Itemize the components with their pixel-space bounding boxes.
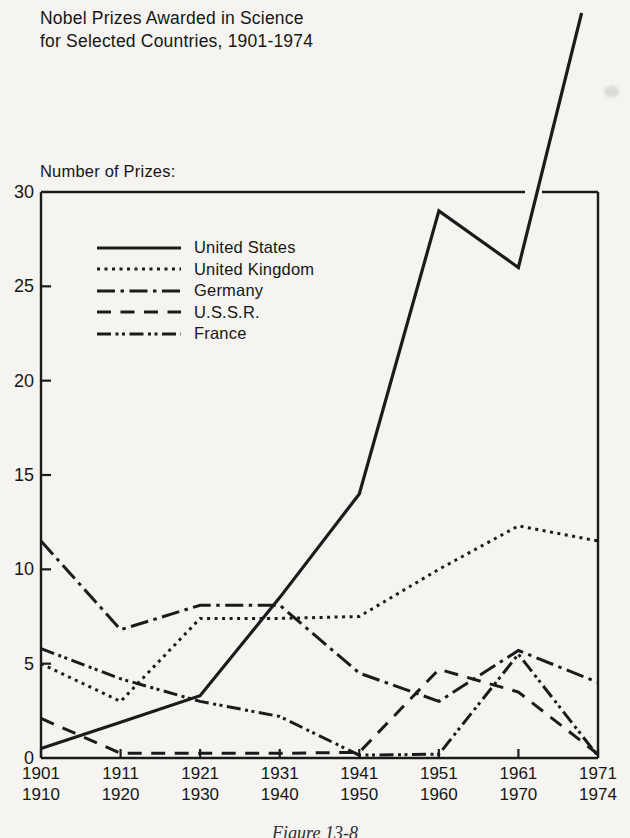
x-axis-label: 1921 (181, 764, 219, 783)
legend-swatch-solid-line (97, 245, 181, 251)
y-axis-label: 20 (14, 371, 34, 391)
legend-label: United Kingdom (194, 260, 314, 279)
x-axis-label: 1941 (340, 764, 378, 783)
legend-item-united-states: United States (97, 237, 314, 259)
series-line-u-s-s-r (41, 669, 598, 754)
y-axis-label: 5 (24, 654, 34, 674)
x-axis-label: 1951 (420, 764, 458, 783)
y-axis-label: 10 (14, 559, 34, 579)
y-axis-label: 30 (14, 182, 34, 202)
series-line-germany (41, 541, 598, 701)
legend-item-germany: Germany (97, 280, 314, 302)
legend-label: France (194, 324, 247, 343)
x-axis-label: 1940 (261, 785, 299, 804)
legend-swatch-dash-dot-dot-line (97, 331, 181, 337)
legend-label: U.S.S.R. (194, 303, 260, 322)
x-axis-label: 1931 (261, 764, 299, 783)
x-axis-label: 1970 (500, 785, 538, 804)
legend-item-france: France (97, 323, 314, 345)
series-line-united-states (41, 13, 582, 749)
x-axis-label: 1960 (420, 785, 458, 804)
legend-label: Germany (194, 281, 263, 300)
x-axis-label: 1974 (579, 785, 617, 804)
legend-label: United States (194, 238, 296, 257)
x-axis-label: 1910 (22, 785, 60, 804)
legend-swatch-long-dash-line (97, 309, 181, 315)
x-axis-label: 1911 (102, 764, 139, 783)
x-axis-label: 1950 (340, 785, 378, 804)
x-axis-label: 1930 (181, 785, 219, 804)
y-axis: 051015202530 (14, 182, 51, 768)
x-axis-label: 1971 (579, 764, 617, 783)
series-line-united-kingdom (41, 526, 598, 702)
x-axis-label: 1961 (500, 764, 538, 783)
y-axis-label: 25 (14, 276, 34, 296)
x-axis-label: 1901 (22, 764, 60, 783)
chart-legend: United StatesUnited KingdomGermanyU.S.S.… (97, 237, 314, 345)
y-axis-label: 15 (14, 465, 34, 485)
series-line-france (41, 649, 598, 757)
line-chart-plot: 0510152025301901191019111920192119301931… (0, 0, 630, 838)
legend-swatch-dotted-line (97, 266, 181, 272)
legend-item-united-kingdom: United Kingdom (97, 259, 314, 281)
page-root: Nobel Prizes Awarded in Science for Sele… (0, 0, 630, 838)
legend-item-u-s-s-r: U.S.S.R. (97, 302, 314, 324)
figure-caption: Figure 13-8 (0, 823, 630, 838)
x-axis-label: 1920 (102, 785, 140, 804)
legend-swatch-dash-dot-line (97, 288, 181, 294)
